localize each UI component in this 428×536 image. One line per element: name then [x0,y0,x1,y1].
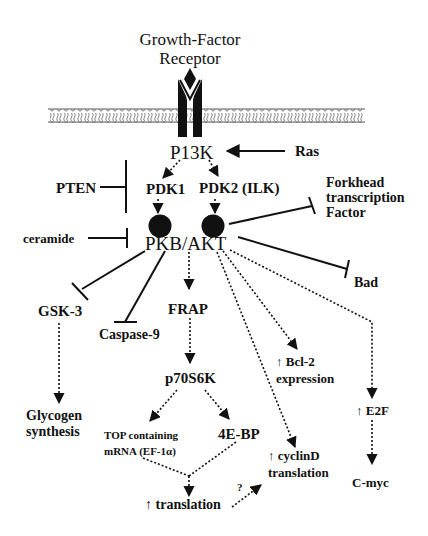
receptor-icon [178,68,202,137]
cyclind-label-line2: translation [268,466,329,479]
forkhead-label-line2: transcription [326,191,405,205]
4ebp-label: 4E-BP [218,427,260,442]
pdk2-label: PDK2 (ILK) [199,181,279,196]
top-mrna-label-line2: mRNA (EF-1α) [104,446,176,457]
forkhead-label-line3: Factor [326,206,366,220]
p70s6k-to-4ebp-arrow [205,390,229,419]
pathway-diagram: Growth-Factor Receptor P13K Ras PTEN PDK… [0,0,428,536]
pten-inhibition [100,160,126,213]
receptor-title-line1: Growth-Factor [120,31,260,48]
e2f-label: ↑ E2F [356,404,389,417]
pkb-akt-label: PKB/AKT [145,234,226,253]
pdk1-label: PDK1 [146,182,185,197]
glycogen-label-line1: Glycogen [26,409,82,423]
cell-membrane [48,109,365,123]
frap-label: FRAP [168,302,208,317]
cyclind-label-line1: ↑ cyclinD [268,449,320,462]
top-to-translation-line [143,458,189,476]
glycogen-label-line2: synthesis [26,425,80,439]
top-mrna-label-line1: TOP containing [104,430,178,441]
bcl2-label-line1: ↑ Bcl-2 [276,355,315,368]
caspase9-label: Caspase-9 [99,328,160,342]
gsk3-label: GSK-3 [38,304,82,319]
receptor-title-line2: Receptor [120,50,260,67]
4ebp-to-translation-line [189,442,236,476]
uncertain-link-label: ? [237,482,243,493]
p70s6k-label: p70S6K [165,371,216,386]
translation-label: ↑ translation [145,498,221,512]
pi3k-label: P13K [170,143,213,162]
diagram-graphics [0,0,428,536]
bad-label: Bad [354,276,378,290]
akt-inhibits-bad [238,237,349,278]
p70s6k-to-top-arrow [150,390,177,421]
akt-inhibits-gsk3 [72,251,145,300]
forkhead-label-line1: Forkhead [326,176,384,190]
cmyc-label: C-myc [352,476,389,489]
pten-label: PTEN [56,181,96,196]
bcl2-label-line2: expression [276,372,334,385]
akt-inhibits-forkhead [229,197,315,224]
ras-label: Ras [295,144,319,159]
akt-inhibits-caspase9 [114,251,165,322]
ceramide-inhibition [88,228,127,248]
ceramide-label: ceramide [23,232,74,245]
